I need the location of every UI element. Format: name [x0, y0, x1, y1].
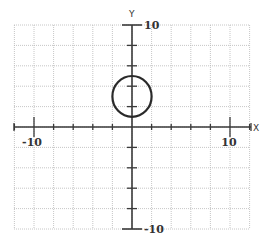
x-tick-label: -10 [22, 136, 42, 149]
axis-labels: X Y -101010-10 [22, 9, 259, 236]
y-tick-label: 10 [144, 19, 160, 32]
coordinate-plane: X Y -101010-10 [0, 0, 266, 237]
x-tick-label: 10 [221, 136, 237, 149]
x-axis-name: X [253, 123, 259, 133]
axes [14, 25, 251, 229]
y-axis-name: Y [128, 9, 135, 19]
y-tick-label: -10 [144, 223, 164, 236]
